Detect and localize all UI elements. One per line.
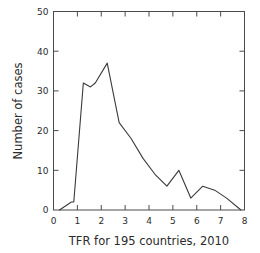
data-series-line bbox=[59, 63, 240, 210]
y-tick-label: 30 bbox=[37, 86, 49, 96]
y-tick-label: 20 bbox=[37, 126, 49, 136]
x-tick-label: 4 bbox=[146, 216, 152, 226]
x-tick-label: 0 bbox=[51, 216, 57, 226]
x-tick-label: 7 bbox=[218, 216, 224, 226]
x-tick-label: 5 bbox=[170, 216, 176, 226]
axis-box bbox=[54, 12, 245, 211]
y-tick-label: 0 bbox=[43, 205, 49, 215]
y-axis-ticks-right bbox=[240, 51, 245, 170]
plot-frame bbox=[54, 12, 245, 211]
x-axis-title: TFR for 195 countries, 2010 bbox=[68, 234, 229, 248]
y-tick-label: 40 bbox=[37, 47, 49, 57]
x-tick-label: 2 bbox=[98, 216, 104, 226]
x-tick-label: 3 bbox=[122, 216, 128, 226]
chart-container: 012345678 01020304050 TFR for 195 countr… bbox=[0, 0, 260, 253]
y-tick-label: 10 bbox=[37, 166, 49, 176]
x-tick-label: 8 bbox=[242, 216, 248, 226]
frequency-polygon-chart: 012345678 01020304050 TFR for 195 countr… bbox=[0, 0, 260, 253]
y-axis-ticks-left bbox=[54, 51, 59, 170]
x-axis-ticks-top bbox=[77, 12, 220, 17]
x-tick-label: 1 bbox=[75, 216, 81, 226]
y-axis-title: Number of cases bbox=[11, 62, 25, 159]
x-axis-ticks-bottom bbox=[77, 205, 220, 210]
y-axis-tick-labels: 01020304050 bbox=[37, 7, 49, 216]
y-tick-label: 50 bbox=[37, 7, 49, 17]
x-axis-tick-labels: 012345678 bbox=[51, 216, 248, 226]
x-tick-label: 6 bbox=[194, 216, 200, 226]
